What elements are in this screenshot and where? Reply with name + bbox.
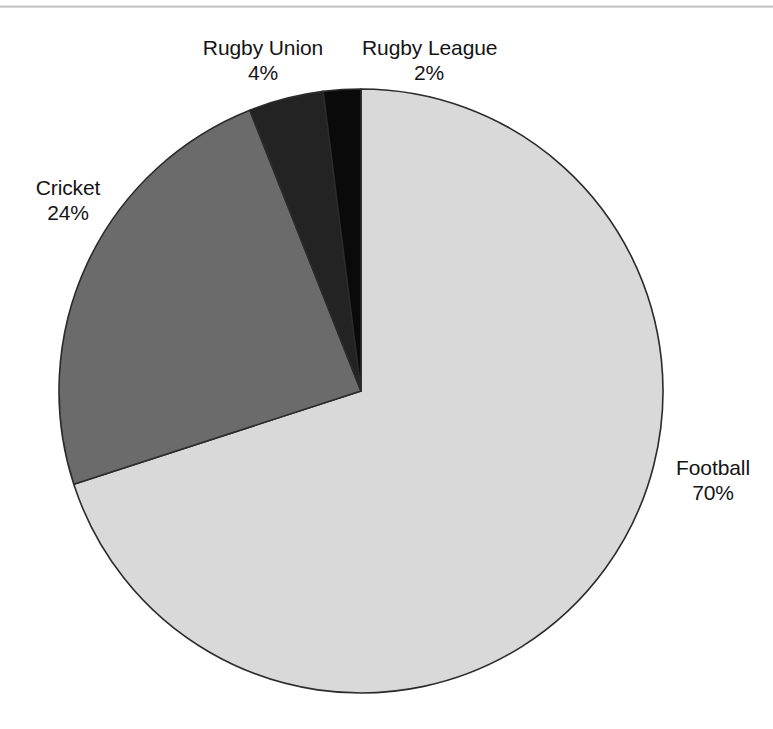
pie-label-rugby-league-value: 2% [362,60,496,85]
pie-label-rugby-league: Rugby League 2% [362,35,496,85]
pie-label-rugby-union-name: Rugby Union [198,35,328,60]
pie-label-rugby-league-name: Rugby League [362,35,496,60]
pie-label-cricket-name: Cricket [14,175,122,200]
pie-label-football-value: 70% [664,480,762,505]
pie-label-cricket-value: 24% [14,200,122,225]
pie-slice-group [59,89,663,693]
pie-chart-canvas [0,0,773,729]
pie-chart-figure: Rugby Union 4% Rugby League 2% Cricket 2… [0,0,773,729]
pie-label-cricket: Cricket 24% [14,175,122,225]
pie-label-football-name: Football [664,455,762,480]
pie-label-rugby-union-value: 4% [198,60,328,85]
pie-label-football: Football 70% [664,455,762,505]
pie-label-rugby-union: Rugby Union 4% [198,35,328,85]
